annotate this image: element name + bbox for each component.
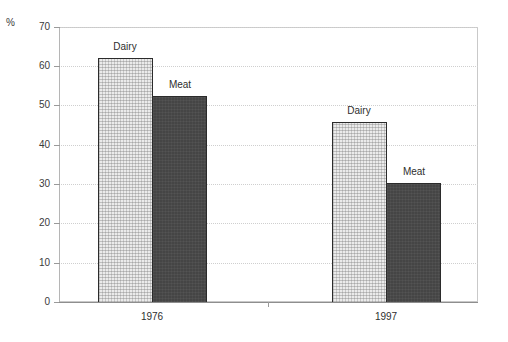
y-tick-label-40: 40 xyxy=(4,140,50,150)
x-tick-midpoint xyxy=(268,302,269,307)
y-tick-60 xyxy=(54,66,60,67)
bar-chart: % 70 60 50 40 30 20 10 0 Dairy Meat Dair… xyxy=(0,0,508,342)
y-tick-label-50: 50 xyxy=(4,100,50,110)
y-tick-label-60: 60 xyxy=(4,61,50,71)
bar-1976-dairy xyxy=(98,58,153,303)
bar-label-1997-dairy: Dairy xyxy=(324,105,394,116)
y-axis-line xyxy=(59,27,60,303)
bar-label-1976-dairy: Dairy xyxy=(90,41,160,52)
y-tick-label-10: 10 xyxy=(4,258,50,268)
y-tick-20 xyxy=(54,223,60,224)
y-tick-label-30: 30 xyxy=(4,179,50,189)
y-tick-40 xyxy=(54,145,60,146)
bar-1997-dairy xyxy=(332,122,387,303)
gridline-70 xyxy=(59,27,478,28)
bar-label-1976-meat: Meat xyxy=(145,79,215,90)
y-tick-label-70: 70 xyxy=(4,22,50,32)
bar-1976-meat xyxy=(152,96,207,303)
y-tick-label-20: 20 xyxy=(4,218,50,228)
y-tick-50 xyxy=(54,105,60,106)
y-tick-70 xyxy=(54,27,60,28)
x-tick-label-1976: 1976 xyxy=(122,311,182,322)
y-tick-label-0: 0 xyxy=(4,297,50,307)
bar-label-1997-meat: Meat xyxy=(379,166,449,177)
x-tick-label-1997: 1997 xyxy=(356,311,416,322)
y-tick-10 xyxy=(54,263,60,264)
bar-1997-meat xyxy=(386,183,441,303)
y-tick-30 xyxy=(54,184,60,185)
